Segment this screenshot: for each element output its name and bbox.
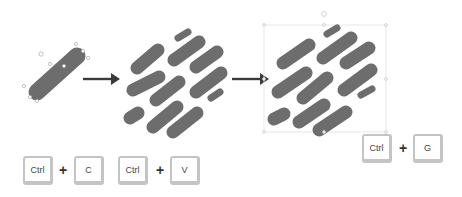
plus-sign: + bbox=[155, 164, 165, 176]
key-v: V bbox=[170, 156, 200, 185]
duplicated-shapes bbox=[130, 32, 221, 132]
plus-sign: + bbox=[58, 164, 68, 176]
key-ctrl: Ctrl bbox=[362, 134, 392, 163]
key-g: G bbox=[413, 134, 443, 163]
single-shape bbox=[22, 42, 89, 102]
rotate-handle-icon bbox=[322, 12, 327, 17]
plus-sign: + bbox=[398, 142, 408, 154]
key-ctrl: Ctrl bbox=[23, 156, 53, 185]
rotate-handle-icon bbox=[39, 52, 43, 56]
key-ctrl: Ctrl bbox=[118, 156, 148, 185]
right-arrow-icon bbox=[83, 73, 120, 85]
diagram-canvas bbox=[0, 0, 462, 197]
grouped-shapes bbox=[263, 12, 388, 134]
key-c: C bbox=[74, 156, 104, 185]
